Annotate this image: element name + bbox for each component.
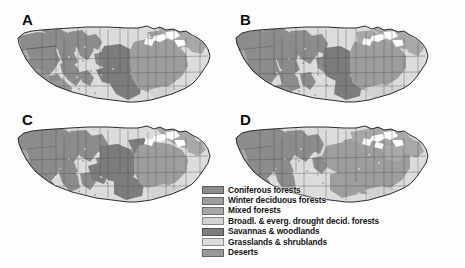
legend-label: Savannas & woodlands <box>228 227 320 236</box>
legend-swatch-savannas-woodlands <box>202 228 224 236</box>
panel-b: B <box>226 16 444 116</box>
legend-swatch-mixed-forests <box>202 207 224 215</box>
legend-swatch-grasslands-shrublands <box>202 238 224 246</box>
panel-c-map <box>8 116 226 216</box>
legend-swatch-coniferous-forests <box>202 186 224 194</box>
legend-label: Mixed forests <box>228 206 281 215</box>
map-legend: Coniferous forests Winter deciduous fore… <box>202 185 379 258</box>
legend-swatch-broadleaf-evergreen-drought-deciduous-forests <box>202 217 224 225</box>
legend-item: Grasslands & shrublands <box>202 237 379 247</box>
legend-label: Broadl. & everg. drought decid. forests <box>228 217 379 226</box>
legend-swatch-winter-deciduous-forests <box>202 197 224 205</box>
legend-item: Mixed forests <box>202 206 379 216</box>
legend-item: Deserts <box>202 247 379 257</box>
panel-a-label: A <box>22 12 33 27</box>
legend-item: Broadl. & everg. drought decid. forests <box>202 216 379 226</box>
legend-label: Winter deciduous forests <box>228 196 326 205</box>
legend-label: Coniferous forests <box>228 186 301 195</box>
legend-item: Coniferous forests <box>202 185 379 195</box>
figure-canvas: A <box>0 0 465 268</box>
panel-c: C <box>8 116 226 216</box>
legend-item: Savannas & woodlands <box>202 227 379 237</box>
panel-b-label: B <box>240 12 251 27</box>
panel-a: A <box>8 16 226 116</box>
legend-swatch-deserts <box>202 249 224 257</box>
panel-d-label: D <box>240 112 251 127</box>
legend-label: Deserts <box>228 248 258 257</box>
panel-c-label: C <box>22 112 33 127</box>
panel-b-map <box>226 16 444 116</box>
legend-label: Grasslands & shrublands <box>228 238 327 247</box>
panel-a-map <box>8 16 226 116</box>
